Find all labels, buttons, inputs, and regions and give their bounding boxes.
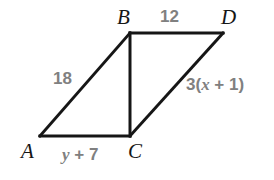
measure-cd-prefix: 3( (186, 75, 201, 94)
measure-label-ab: 18 (53, 70, 72, 87)
measure-cd-variable: x (201, 75, 210, 94)
vertex-label-d: D (221, 7, 236, 28)
vertex-label-b: B (117, 7, 130, 28)
measure-ac-suffix: + 7 (70, 145, 99, 164)
measure-cd-suffix: + 1) (210, 75, 245, 94)
measure-label-bd: 12 (160, 8, 179, 25)
measure-label-cd: 3(x + 1) (186, 76, 244, 93)
vertex-label-a: A (21, 141, 34, 162)
measure-ac-variable: y (62, 145, 70, 164)
measure-label-ac: y + 7 (62, 146, 98, 163)
vertex-label-c: C (128, 141, 142, 162)
